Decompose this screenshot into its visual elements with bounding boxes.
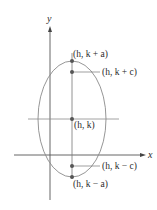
vertex-top-point xyxy=(70,59,74,63)
diagram-canvas: y x (h, k + a) (h, k + c) (h, k) (h, k −… xyxy=(0,0,157,210)
focus-bottom-label: (h, k − c) xyxy=(102,161,137,172)
ellipse-diagram: y x (h, k + a) (h, k + c) (h, k) (h, k −… xyxy=(0,0,157,210)
focus-top-label: (h, k + c) xyxy=(102,67,137,78)
focus-bottom-point xyxy=(70,164,74,168)
center-label: (h, k) xyxy=(74,120,95,131)
vertex-bottom-label: (h, k − a) xyxy=(73,179,108,190)
vertex-top-label: (h, k + a) xyxy=(73,49,108,60)
y-axis-arrow-icon xyxy=(48,26,52,32)
x-axis-arrow-icon xyxy=(140,153,146,157)
y-axis-label: y xyxy=(46,13,52,24)
x-axis-label: x xyxy=(147,149,153,160)
focus-top-point xyxy=(70,70,74,74)
